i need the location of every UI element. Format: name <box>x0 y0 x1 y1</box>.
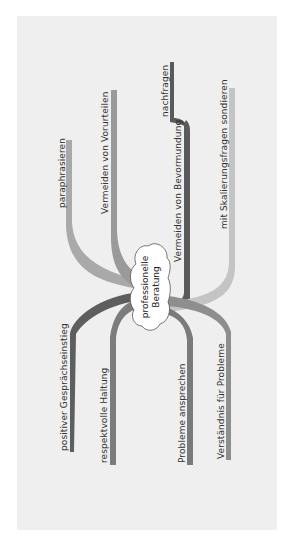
label-probleme-ansprechen: Probleme ansprechen <box>177 363 187 463</box>
label-positiver-gespraechseinstieg: positiver Gesprächseinstieg <box>59 323 69 451</box>
center-label-line2: Beratung <box>151 252 162 322</box>
center-topic: professionelle Beratung <box>140 252 162 322</box>
label-verstaendnis-fuer-probleme: Verständnis für Probleme <box>216 343 226 459</box>
label-paraphrasieren: paraphrasieren <box>57 138 67 208</box>
branch-respektvolle-haltung <box>110 300 138 465</box>
label-respektvolle-haltung: respektvolle Haltung <box>99 368 109 463</box>
label-vermeiden-von-vorurteilen: Vermeiden von Vorurteilen <box>100 92 110 214</box>
label-vermeiden-von-bevormundung: Vermeiden von Bevormundung <box>173 120 183 262</box>
label-nachfragen: nachfragen <box>160 65 170 117</box>
center-label-line1: professionelle <box>140 252 151 322</box>
label-mit-skalierungsfragen-sondieren: mit Skalierungsfragen sondieren <box>219 79 229 229</box>
branch-nachfragen <box>170 62 186 126</box>
